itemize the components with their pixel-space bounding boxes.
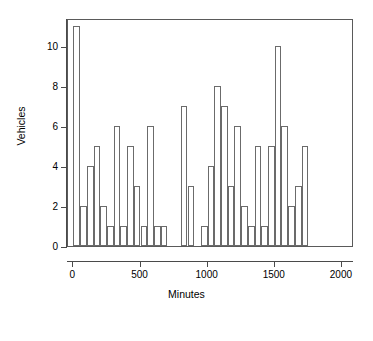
histogram-bar [281, 126, 288, 246]
histogram-bar [94, 146, 101, 246]
plot-area [67, 19, 353, 247]
histogram-bar [87, 166, 94, 246]
x-axis-tick [72, 261, 73, 267]
histogram-bar [228, 186, 235, 246]
histogram-bar [248, 226, 255, 246]
histogram-figure: 0246810 Vehicles 0500100015002000 Minute… [0, 0, 373, 341]
histogram-bar [275, 46, 282, 246]
x-axis-title: Minutes [0, 288, 373, 300]
histogram-bar [80, 206, 87, 246]
x-axis-tick [341, 261, 342, 267]
histogram-bar [100, 206, 107, 246]
histogram-bar [255, 146, 262, 246]
histogram-bar [214, 86, 221, 246]
x-axis-tick [274, 261, 275, 267]
histogram-bar [147, 126, 154, 246]
histogram-bar [134, 186, 141, 246]
y-axis-tick-label: 4 [52, 162, 58, 172]
histogram-bar [295, 186, 302, 246]
histogram-bar [154, 226, 161, 246]
histogram-bar [268, 146, 275, 246]
y-axis-tick-label: 8 [52, 82, 58, 92]
y-axis-tick-label: 6 [52, 122, 58, 132]
histogram-bar [221, 106, 228, 246]
x-axis-line [67, 261, 353, 262]
y-axis-tick-label: 10 [47, 42, 58, 52]
bar-series [68, 20, 352, 246]
histogram-bar [241, 206, 248, 246]
histogram-bar [141, 226, 148, 246]
histogram-bar [234, 126, 241, 246]
histogram-bar [127, 146, 134, 246]
histogram-bar [73, 26, 80, 246]
histogram-bar [114, 126, 121, 246]
histogram-bar [201, 226, 208, 246]
x-axis-tick [207, 261, 208, 267]
histogram-bar [120, 226, 127, 246]
histogram-bar [261, 226, 268, 246]
histogram-bar [107, 226, 114, 246]
x-axis: 0500100015002000 [0, 247, 373, 287]
histogram-bar [181, 106, 188, 246]
x-axis-tick [140, 261, 141, 267]
x-axis-tick-label: 1000 [196, 270, 218, 280]
x-axis-tick-label: 1500 [263, 270, 285, 280]
histogram-bar [161, 226, 168, 246]
histogram-bar [302, 146, 309, 246]
histogram-bar [208, 166, 215, 246]
histogram-bar [288, 206, 295, 246]
y-axis-title-label: Vehicles [15, 98, 27, 154]
x-axis-tick-label: 0 [70, 270, 76, 280]
x-axis-tick-label: 500 [131, 270, 148, 280]
histogram-bar [188, 186, 195, 246]
y-axis-tick-label: 2 [52, 202, 58, 212]
x-axis-tick-label: 2000 [330, 270, 352, 280]
